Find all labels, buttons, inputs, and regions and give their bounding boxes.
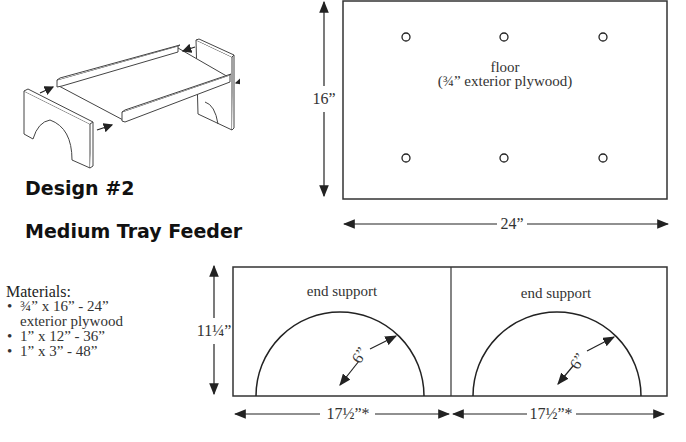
floor-hole — [402, 154, 410, 162]
floor-height-dim: 16” — [312, 90, 335, 107]
floor-width-dim: 24” — [500, 215, 523, 232]
floor-hole — [402, 33, 410, 41]
floor-hole — [500, 154, 508, 162]
support-height-dim: 11¼” — [197, 322, 232, 339]
floor-sublabel: (¾” exterior plywood) — [438, 73, 573, 90]
support-width-dim-right: 17½”* — [529, 405, 572, 422]
end-support-board — [233, 267, 667, 396]
plan-drawings: floor (¾” exterior plywood) 16” 24” 6” e… — [0, 0, 686, 442]
support-width-dim-left: 17½”* — [326, 405, 369, 422]
end-support-label: end support — [521, 285, 592, 301]
floor-hole — [599, 33, 607, 41]
floor-hole — [500, 33, 508, 41]
floor-panel — [343, 1, 667, 199]
floor-hole — [599, 154, 607, 162]
end-support-label: end support — [307, 283, 378, 299]
